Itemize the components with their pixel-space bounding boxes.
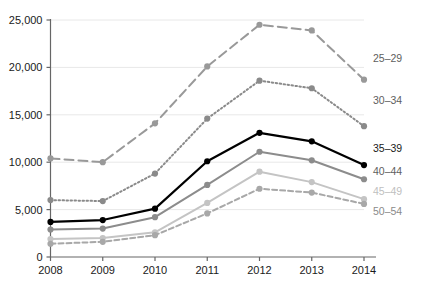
- data-point: [309, 179, 315, 185]
- data-point: [47, 241, 53, 247]
- data-point: [152, 214, 158, 220]
- legend-item-45-49[interactable]: 45–49: [373, 185, 402, 197]
- line-chart: 05,00010,00015,00020,00025,000 200820092…: [0, 0, 439, 288]
- y-axis-tick-label: 5,000: [15, 204, 43, 216]
- data-point: [47, 219, 53, 225]
- data-point: [47, 197, 53, 203]
- data-point: [309, 157, 315, 163]
- x-axis-tick-label: 2012: [247, 264, 271, 276]
- legend-item-35-39[interactable]: 35–39: [373, 142, 402, 154]
- data-point: [100, 159, 106, 165]
- x-axis-tick-label: 2013: [300, 264, 324, 276]
- data-point: [204, 210, 210, 216]
- data-point: [204, 158, 210, 164]
- data-point: [47, 226, 53, 232]
- data-point: [256, 149, 262, 155]
- x-axis-tick-label: 2014: [352, 264, 376, 276]
- data-point: [152, 120, 158, 126]
- data-point: [309, 189, 315, 195]
- data-point: [361, 176, 367, 182]
- x-axis-tick-label: 2009: [91, 264, 115, 276]
- chart-canvas: 05,00010,00015,00020,00025,000 200820092…: [0, 0, 439, 288]
- data-point: [309, 85, 315, 91]
- data-point: [100, 217, 106, 223]
- data-point: [204, 115, 210, 121]
- data-point: [309, 138, 315, 144]
- data-point: [100, 198, 106, 204]
- data-point: [256, 22, 262, 28]
- data-point: [361, 201, 367, 207]
- data-point: [204, 182, 210, 188]
- data-point: [309, 27, 315, 33]
- data-point: [204, 200, 210, 206]
- data-point: [100, 225, 106, 231]
- data-point: [256, 169, 262, 175]
- data-point: [47, 155, 53, 161]
- data-point: [204, 63, 210, 69]
- data-point: [256, 78, 262, 84]
- data-point: [361, 162, 367, 168]
- y-axis-tick-label: 25,000: [9, 14, 43, 26]
- data-point: [152, 206, 158, 212]
- y-axis-tick-label: 15,000: [9, 109, 43, 121]
- data-point: [361, 77, 367, 83]
- data-point: [152, 232, 158, 238]
- data-point: [361, 123, 367, 129]
- data-point: [256, 130, 262, 136]
- legend-item-50-54[interactable]: 50–54: [373, 205, 402, 217]
- x-axis-tick-label: 2011: [195, 264, 219, 276]
- data-point: [152, 170, 158, 176]
- y-axis-tick-label: 20,000: [9, 61, 43, 73]
- data-point: [100, 239, 106, 245]
- x-axis-tick-label: 2010: [143, 264, 167, 276]
- y-axis-tick-label: 0: [36, 251, 42, 263]
- data-point: [256, 186, 262, 192]
- legend-item-25-29[interactable]: 25–29: [373, 52, 402, 64]
- legend-item-40-44[interactable]: 40–44: [373, 165, 402, 177]
- y-axis-tick-label: 10,000: [9, 156, 43, 168]
- legend-item-30-34[interactable]: 30–34: [373, 94, 402, 106]
- x-axis-tick-label: 2008: [38, 264, 62, 276]
